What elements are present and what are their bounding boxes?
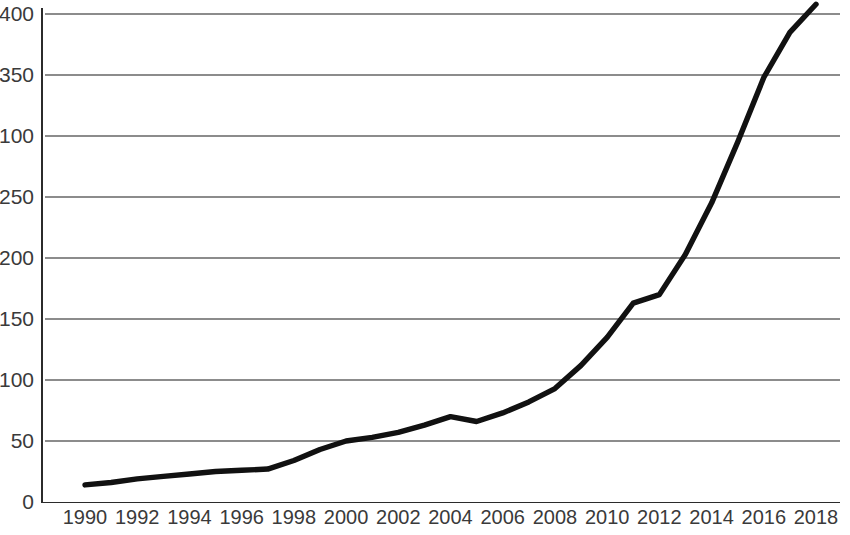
x-tick-label: 1992 xyxy=(115,506,160,528)
y-tick-label: 0 xyxy=(22,490,34,513)
y-tick-label: 150 xyxy=(0,307,34,330)
x-tick-label: 2012 xyxy=(637,506,682,528)
x-axis-tick-labels: 1990199219941996199820002002200420062008… xyxy=(63,506,839,528)
y-tick-label: 250 xyxy=(0,185,34,208)
y-tick-label: 400 xyxy=(0,2,34,25)
x-tick-label: 1990 xyxy=(63,506,108,528)
x-tick-label: 2016 xyxy=(742,506,787,528)
y-tick-label: 350 xyxy=(0,63,34,86)
x-tick-label: 2006 xyxy=(480,506,525,528)
x-tick-label: 2018 xyxy=(794,506,839,528)
x-tick-label: 2000 xyxy=(324,506,369,528)
y-tick-label: 50 xyxy=(11,429,34,452)
plot-background xyxy=(0,0,850,535)
x-tick-label: 2008 xyxy=(533,506,578,528)
x-tick-label: 1996 xyxy=(219,506,264,528)
x-tick-label: 2002 xyxy=(376,506,421,528)
chart-canvas: 050100150200250100350400 199019921994199… xyxy=(0,0,850,535)
y-tick-label: 100 xyxy=(0,124,34,147)
x-tick-label: 2010 xyxy=(585,506,630,528)
x-tick-label: 1998 xyxy=(272,506,317,528)
y-tick-label: 100 xyxy=(0,368,34,391)
x-tick-label: 2014 xyxy=(689,506,734,528)
y-tick-label: 200 xyxy=(0,246,34,269)
line-chart: 050100150200250100350400 199019921994199… xyxy=(0,0,850,535)
x-tick-label: 1994 xyxy=(167,506,212,528)
x-tick-label: 2004 xyxy=(428,506,473,528)
